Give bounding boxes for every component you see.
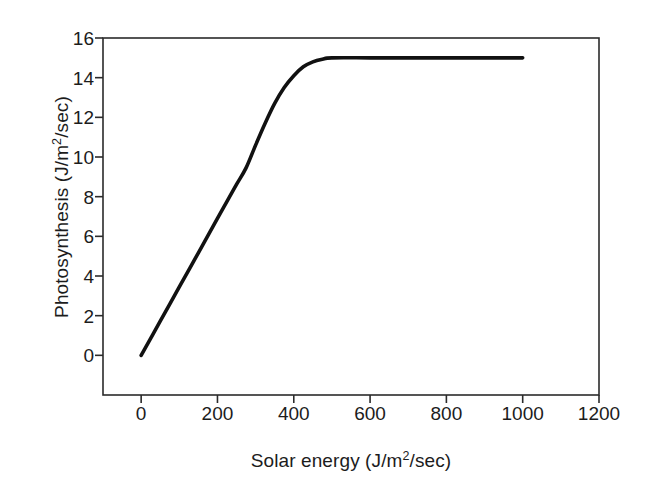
plot-area bbox=[0, 0, 656, 491]
data-series-line bbox=[141, 58, 523, 356]
axis-ticks bbox=[95, 38, 599, 403]
axes-frame bbox=[103, 38, 599, 395]
plot-border bbox=[103, 38, 599, 395]
chart-figure: Photosynthesis (J/m2/sec) Solar energy (… bbox=[0, 0, 656, 491]
